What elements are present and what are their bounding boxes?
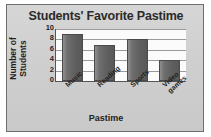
y-axis-tick-label: 2: [43, 66, 54, 74]
chart-panel: Students' Favorite Pastime Number of Stu…: [6, 4, 204, 132]
y-axis-tick-label: 4: [43, 55, 54, 63]
y-axis-tick-label: 0: [43, 76, 54, 84]
y-axis-tick-label: 6: [43, 45, 54, 53]
y-axis-tick-label: 8: [43, 34, 54, 42]
chart-frame: Students' Favorite Pastime Number of Stu…: [0, 0, 211, 137]
chart-title: Students' Favorite Pastime: [7, 9, 205, 23]
y-axis-tick-label: 10: [43, 24, 54, 32]
x-axis-title: Pastime: [7, 113, 205, 123]
y-axis-title: Number of Students: [9, 31, 28, 87]
y-axis-tick-labels: 0246810: [43, 24, 54, 76]
x-axis-tick-labels: MusicReadingSportsVideo games: [55, 83, 195, 113]
